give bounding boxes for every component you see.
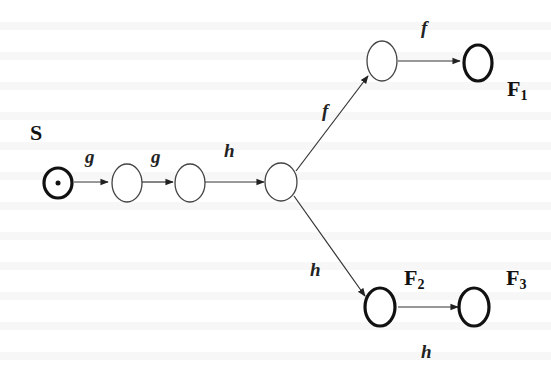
label-F2: F2	[404, 265, 424, 292]
edge-label-n4-F1: f	[421, 17, 429, 38]
node-n2	[175, 164, 205, 202]
edge-n3-F2	[294, 196, 365, 296]
node-n1	[112, 164, 142, 202]
node-F1	[464, 45, 492, 81]
node-n4	[367, 41, 397, 81]
node-F3	[459, 288, 489, 326]
label-F1: F1	[507, 76, 527, 103]
start-dot-icon	[56, 181, 61, 186]
state-diagram: g g h f f h h S F1 F2 F3	[0, 0, 551, 378]
edge-label-S-n1: g	[84, 146, 95, 167]
edge-label-n2-n3: h	[224, 140, 235, 161]
label-F3: F3	[506, 265, 526, 292]
edge-label-F2-F3: h	[421, 341, 432, 362]
edge-label-n3-F2: h	[310, 259, 321, 280]
node-F2	[365, 288, 395, 326]
edge-label-n1-n2: g	[150, 146, 161, 167]
node-n3	[265, 163, 297, 201]
edge-n3-n4	[296, 76, 368, 171]
node-start	[44, 168, 72, 198]
label-start: S	[30, 120, 42, 145]
edge-label-n3-n4: f	[322, 100, 330, 121]
